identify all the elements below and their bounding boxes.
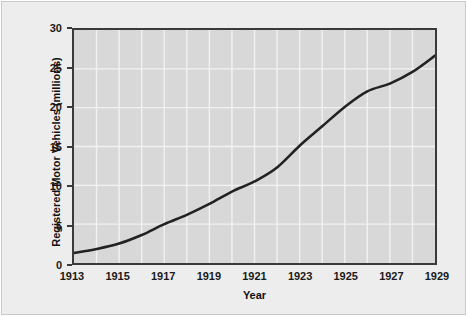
x-tick-label: 1925	[321, 270, 371, 283]
x-tick-label: 1923	[275, 270, 325, 283]
x-tick-label: 1915	[93, 270, 143, 283]
y-tick-mark	[67, 146, 72, 148]
x-tick-label: 1919	[184, 270, 234, 283]
x-tick-label: 1929	[412, 270, 462, 283]
y-axis-title: Registered Motor Vehicles (millions)	[50, 32, 62, 272]
y-tick-mark	[67, 225, 72, 227]
x-tick-label: 1917	[138, 270, 188, 283]
y-tick-mark	[67, 106, 72, 108]
chart-figure: 051015202530 191319151917191919211923192…	[0, 0, 468, 317]
x-tick-label: 1921	[230, 270, 280, 283]
y-tick-mark	[67, 67, 72, 69]
y-tick-mark	[67, 185, 72, 187]
data-series-line	[74, 30, 435, 263]
x-axis-title: Year	[72, 289, 437, 301]
y-tick-mark	[67, 27, 72, 29]
plot-area	[72, 28, 437, 265]
y-tick-mark	[67, 264, 72, 266]
x-tick-label: 1927	[366, 270, 416, 283]
